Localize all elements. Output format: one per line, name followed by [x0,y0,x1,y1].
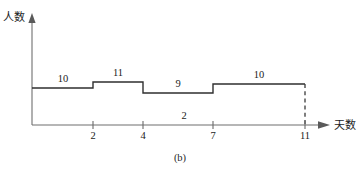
segment-label-4: 10 [254,69,265,80]
x-axis-title: 天数 [334,119,356,132]
figure-caption: (b) [174,152,187,164]
x-tick-label-11: 11 [300,130,310,141]
x-tick-label-4: 4 [140,130,146,141]
segment-label-1: 10 [58,73,69,84]
inner-region-label: 2 [181,110,186,121]
x-axis-arrow-icon [318,121,330,129]
figure-container: 人数 天数 10 11 9 10 2 2 4 7 11 (b) [0,0,359,171]
y-axis-title: 人数 [3,11,25,24]
step-function-path [32,82,305,93]
step-chart: 人数 天数 10 11 9 10 2 2 4 7 11 (b) [0,0,359,171]
x-tick-label-2: 2 [90,130,95,141]
segment-label-2: 11 [113,67,123,78]
y-axis-arrow-icon [28,13,35,23]
x-tick-label-7: 7 [210,130,215,141]
segment-label-3: 9 [175,78,180,89]
